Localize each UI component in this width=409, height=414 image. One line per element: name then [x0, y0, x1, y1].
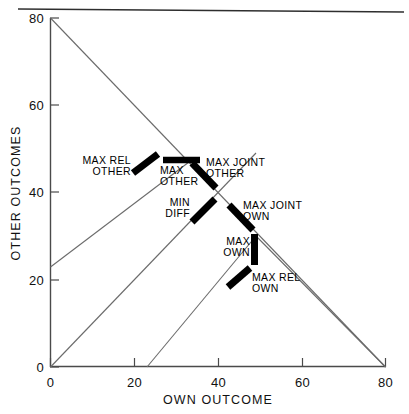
y-axis-title: OTHER OUTCOMES — [9, 126, 23, 261]
y-tick-label-0: 0 — [36, 360, 44, 375]
label-max-joint-own-line2: OWN — [243, 210, 270, 222]
outcome-space-figure: 80 60 40 20 0 0 20 40 60 80 OWN OUTCOME … — [0, 0, 409, 414]
y-tick-label-60: 60 — [29, 98, 44, 113]
marker-max-rel-other — [133, 154, 158, 173]
label-max-rel-own: MAX REL OWN — [252, 271, 301, 294]
marker-min-diff — [192, 199, 215, 222]
line-own-descending — [256, 236, 386, 367]
boundary-lines — [51, 18, 386, 367]
marker-max-rel-own — [228, 268, 250, 287]
y-tick-labels: 80 60 40 20 0 — [29, 11, 44, 375]
label-min-diff: MIN DIFF — [165, 196, 190, 219]
label-max-own: MAX OWN — [223, 235, 250, 258]
label-max-other-line2: OTHER — [160, 175, 199, 187]
x-axis-title: OWN OUTCOME — [163, 393, 273, 407]
label-max-joint-own: MAX JOINT OWN — [243, 199, 302, 222]
y-tick-label-40: 40 — [29, 185, 44, 200]
marker-labels: MAX REL OTHER MAX OTHER MAX JOINT OTHER … — [82, 154, 302, 294]
x-tick-label-60: 60 — [295, 375, 310, 390]
label-max-joint-other: MAX JOINT OTHER — [206, 156, 265, 179]
x-tick-label-20: 20 — [127, 375, 142, 390]
label-max-rel-other: MAX REL OTHER — [82, 154, 131, 177]
x-tick-label-40: 40 — [211, 375, 226, 390]
label-max-rel-other-line2: OTHER — [93, 165, 132, 177]
y-tick-label-80: 80 — [29, 11, 44, 26]
label-max-rel-own-line2: OWN — [252, 282, 279, 294]
label-min-diff-line2: DIFF — [165, 207, 190, 219]
line-equality-diagonal — [51, 153, 257, 367]
label-max-own-line2: OWN — [223, 246, 250, 258]
top-rule — [18, 9, 404, 12]
y-tick-label-20: 20 — [29, 273, 44, 288]
x-tick-label-80: 80 — [378, 375, 393, 390]
x-tick-label-0: 0 — [47, 375, 55, 390]
label-max-joint-other-line2: OTHER — [206, 167, 245, 179]
x-tick-labels: 0 20 40 60 80 — [47, 375, 393, 390]
